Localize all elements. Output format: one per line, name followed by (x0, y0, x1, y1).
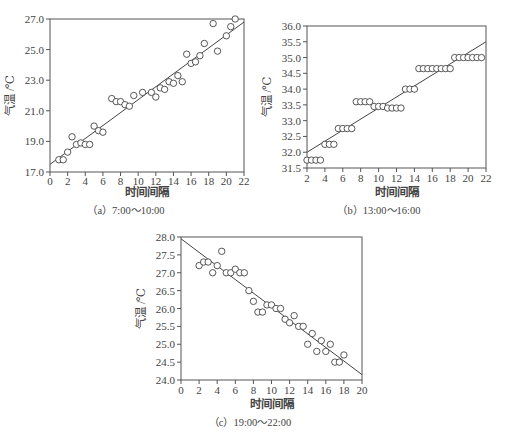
x-tick-label: 18 (203, 175, 215, 187)
x-tick-label: 2 (304, 172, 310, 184)
chart-b: 24681012141618202231.532.032.533.033.534… (253, 0, 505, 218)
y-tick-label: 35.0 (282, 52, 302, 64)
data-point (205, 259, 211, 265)
y-tick-label: 27.0 (25, 13, 45, 25)
data-point (201, 40, 207, 46)
data-point (277, 305, 283, 311)
y-tick-label: 25.5 (156, 320, 176, 332)
data-point (349, 125, 355, 131)
scatter-plot-a: 024681012141618202217.019.021.023.025.02… (0, 0, 252, 200)
y-tick-label: 27.0 (156, 267, 176, 279)
scatter-plot-c: 0246810121416182024.024.525.025.526.026.… (120, 222, 380, 412)
x-tick-label: 6 (100, 175, 106, 187)
x-tick-label: 0 (178, 384, 184, 396)
y-tick-label: 26.0 (156, 303, 176, 315)
x-tick-label: 18 (338, 384, 350, 396)
x-tick-label: 12 (391, 172, 402, 184)
data-point (161, 86, 167, 92)
data-point (197, 53, 203, 59)
x-tick-label: 4 (214, 384, 220, 396)
scatter-plot-b: 24681012141618202231.532.032.533.033.534… (253, 0, 505, 200)
y-axis-label: 气温 /℃ (3, 75, 16, 116)
data-point (318, 337, 324, 343)
data-point (183, 51, 189, 57)
x-tick-label: 6 (233, 384, 239, 396)
y-axis-label: 气温 /℃ (134, 288, 147, 329)
x-tick-label: 6 (340, 172, 346, 184)
x-tick-label: 10 (266, 384, 278, 396)
data-point (317, 157, 323, 163)
x-tick-label: 20 (357, 384, 369, 396)
plot-frame (50, 19, 244, 172)
x-tick-label: 8 (118, 175, 124, 187)
x-tick-label: 16 (186, 175, 198, 187)
data-point (411, 86, 417, 92)
x-tick-label: 4 (83, 175, 89, 187)
chart-a: 024681012141618202217.019.021.023.025.02… (0, 0, 252, 218)
x-tick-label: 20 (221, 175, 233, 187)
data-point (314, 348, 320, 354)
data-point (192, 59, 198, 65)
x-axis-label: 时间间隔 (125, 185, 170, 198)
chart-a-caption: （a）7:00～10:00 (0, 202, 252, 217)
data-point (170, 80, 176, 86)
data-point (214, 48, 220, 54)
chart-c: 0246810121416182024.024.525.025.526.026.… (120, 222, 380, 437)
data-point (341, 352, 347, 358)
data-point (228, 23, 234, 29)
x-axis-label: 时间间隔 (375, 185, 420, 198)
x-tick-label: 8 (358, 172, 364, 184)
data-point (210, 20, 216, 26)
data-point (209, 270, 215, 276)
data-point (64, 149, 70, 155)
data-point (175, 72, 181, 78)
x-tick-label: 14 (302, 384, 314, 396)
chart-c-caption: （c）19:00～22:00 (120, 414, 380, 429)
data-point (86, 141, 92, 147)
y-tick-label: 25.0 (156, 338, 176, 350)
y-tick-label: 33.0 (282, 115, 302, 127)
data-point (327, 341, 333, 347)
x-tick-label: 4 (322, 172, 328, 184)
x-tick-label: 2 (196, 384, 202, 396)
x-tick-label: 22 (481, 172, 492, 184)
y-tick-label: 23.0 (25, 74, 45, 86)
y-tick-label: 19.0 (25, 135, 45, 147)
y-tick-label: 26.5 (156, 285, 176, 297)
data-point (331, 141, 337, 147)
x-tick-label: 8 (251, 384, 257, 396)
data-point (241, 270, 247, 276)
data-point (300, 323, 306, 329)
x-tick-label: 10 (373, 172, 385, 184)
x-tick-label: 14 (168, 175, 180, 187)
chart-b-caption: （b）13:00～16:00 (253, 202, 505, 217)
y-tick-label: 35.5 (282, 36, 302, 48)
y-tick-label: 36.0 (282, 20, 302, 32)
data-point (60, 157, 66, 163)
y-tick-label: 28.0 (156, 231, 176, 243)
x-axis-label: 时间间隔 (250, 397, 295, 410)
data-point (100, 129, 106, 135)
y-tick-label: 21.0 (25, 105, 45, 117)
data-point (309, 330, 315, 336)
y-axis-label: 气温 /℃ (260, 76, 273, 117)
y-tick-label: 27.5 (156, 249, 176, 261)
y-tick-label: 24.5 (156, 356, 176, 368)
data-point (246, 287, 252, 293)
data-point (250, 298, 256, 304)
x-tick-label: 16 (320, 384, 332, 396)
x-tick-label: 2 (65, 175, 71, 187)
data-point (232, 16, 238, 22)
data-point (139, 89, 145, 95)
x-tick-label: 16 (427, 172, 439, 184)
data-point (153, 94, 159, 100)
data-point (447, 65, 453, 71)
x-tick-label: 20 (463, 172, 475, 184)
data-point (131, 92, 137, 98)
x-tick-label: 18 (445, 172, 457, 184)
data-point (219, 248, 225, 254)
y-tick-label: 32.5 (282, 130, 302, 142)
data-point (398, 105, 404, 111)
x-tick-label: 0 (47, 175, 53, 187)
y-tick-label: 17.0 (25, 166, 45, 178)
